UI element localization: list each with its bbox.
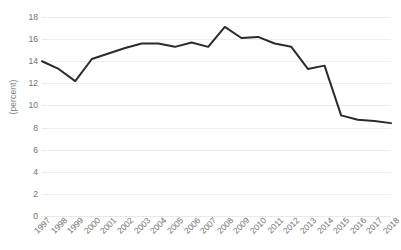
y-axis-tick-label: 18	[29, 13, 38, 22]
y-axis-tick-label: 6	[33, 145, 38, 154]
x-axis-tick-labels: 1997199819992000200120022003200420052006…	[42, 216, 391, 250]
plot-area	[42, 17, 391, 216]
y-axis-tick-label: 12	[29, 79, 38, 88]
y-axis-tick-label: 14	[29, 57, 38, 66]
y-axis-tick-labels: 181614121086420	[16, 0, 38, 250]
y-axis-tick-label: 8	[33, 123, 38, 132]
y-axis-tick-label: 10	[29, 101, 38, 110]
y-axis-tick-label: 0	[33, 212, 38, 221]
series-line-percent	[42, 17, 391, 216]
y-axis-tick-label: 16	[29, 35, 38, 44]
y-axis-tick-label: 4	[33, 168, 38, 177]
y-axis-tick-label: 2	[33, 190, 38, 199]
